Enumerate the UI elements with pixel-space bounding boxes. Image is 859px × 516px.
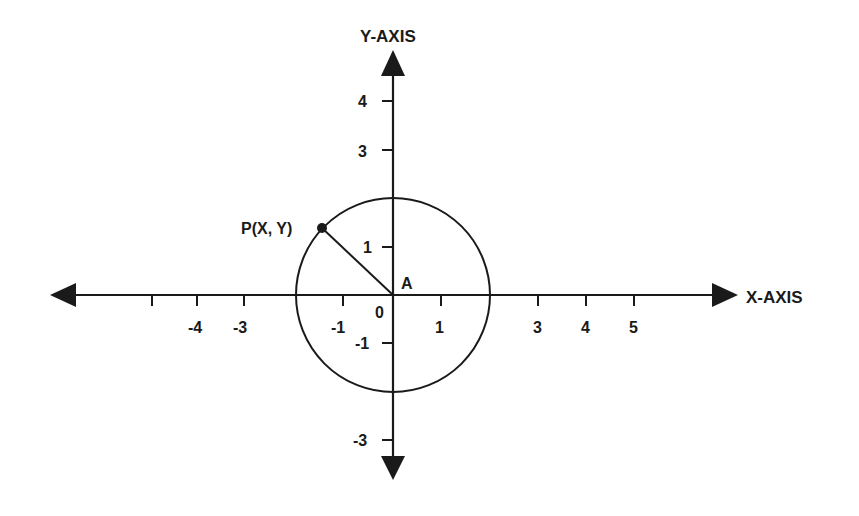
point-p-label: P(X, Y)	[241, 220, 292, 237]
x-axis-label: X-AXIS	[746, 288, 803, 307]
center-a-label: A	[401, 275, 413, 292]
x-tick-label: 0	[375, 304, 384, 321]
y-tick-label: 3	[358, 143, 367, 160]
y-axis-down-arrow-icon	[381, 456, 405, 480]
x-tick-label: 4	[581, 319, 590, 336]
x-tick-label: 3	[533, 319, 542, 336]
coordinate-plane-diagram: Y-AXIS X-AXIS P(X, Y) A -4 -3 -1 0 1 3 4…	[0, 0, 859, 516]
y-axis-up-arrow-icon	[381, 50, 405, 76]
y-tick-label: -3	[353, 432, 367, 449]
y-axis-label: Y-AXIS	[360, 27, 416, 46]
x-tick-label: -4	[188, 319, 202, 336]
radius-line	[322, 228, 393, 295]
x-tick-label: 1	[435, 319, 444, 336]
y-axis-ticks	[382, 101, 392, 440]
y-tick-label: 1	[363, 239, 372, 256]
point-p-marker	[317, 223, 327, 233]
y-tick-label: -1	[355, 335, 369, 352]
x-axis-left-arrow-icon	[50, 283, 76, 307]
x-tick-label: 5	[629, 319, 638, 336]
y-tick-label: 4	[358, 93, 367, 110]
x-tick-label: -3	[233, 319, 247, 336]
x-axis-right-arrow-icon	[712, 283, 738, 307]
x-tick-label: -1	[331, 319, 345, 336]
